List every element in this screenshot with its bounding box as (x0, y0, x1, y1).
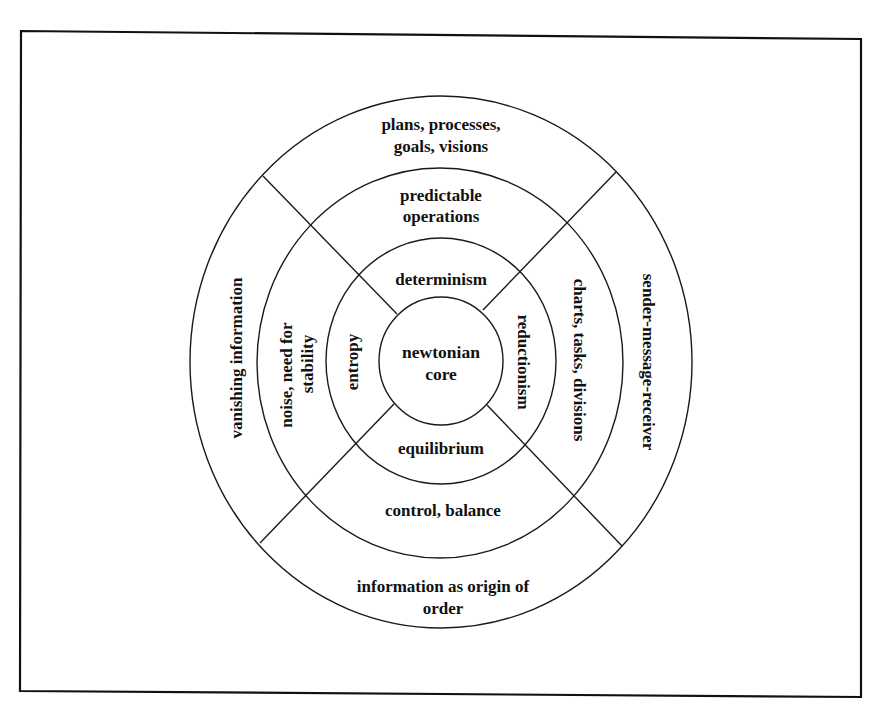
ring2-top-label-line2: operations (403, 207, 480, 226)
divider-top-right (483, 172, 616, 310)
ring1-bottom-label: equilibrium (398, 439, 484, 458)
ring2-right-label: charts, tasks, divisions (570, 279, 589, 442)
ring3-top-label-line2: goals, visions (394, 137, 489, 156)
ring3-bottom-label-line1: information as origin of (357, 577, 530, 596)
ring1-top-label: determinism (395, 270, 487, 289)
center-label-line2: core (425, 364, 457, 384)
ring2-left-label-line1: noise, need for (277, 322, 296, 428)
divider-bottom-right (487, 405, 622, 546)
ring3-bottom-label-line2: order (423, 599, 464, 618)
outer-ring (190, 96, 692, 628)
ring1-right-label: reductionism (514, 314, 533, 409)
ring3-left-label: vanishing information (227, 277, 246, 439)
concentric-diagram: newtonian core determinism equilibrium e… (0, 0, 884, 715)
ring3-top-label-line1: plans, processes, (381, 115, 500, 134)
center-label-line1: newtonian (402, 342, 480, 362)
ring2-bottom-label: control, balance (385, 501, 501, 520)
ring2-left-label-line2: stability (298, 334, 317, 393)
ring1-left-label: entropy (343, 333, 362, 390)
ring3-right-label: sender-message-receiver (639, 274, 658, 451)
divider-top-left (263, 176, 397, 314)
ring2-top-label-line1: predictable (400, 186, 482, 205)
